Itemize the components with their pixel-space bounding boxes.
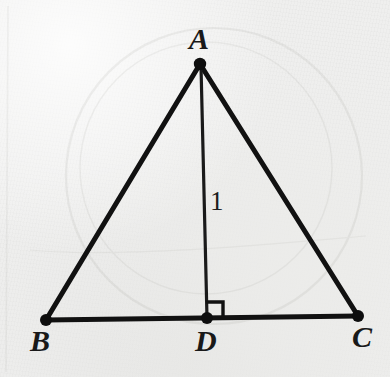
vertex-label-B: B [30,326,50,356]
vertex-dot-D [201,312,213,324]
segment-AC [200,64,358,316]
triangle-diagram [0,0,390,377]
segment-AB [46,64,200,320]
segment-AD-altitude [201,66,207,318]
figure-canvas: A B D C 1 [0,0,390,377]
vertex-dot-A [194,58,206,70]
vertex-label-C: C [352,322,372,352]
altitude-length-label: 1 [210,188,224,215]
vertex-label-A: A [189,24,209,54]
vertex-label-D: D [195,326,217,356]
